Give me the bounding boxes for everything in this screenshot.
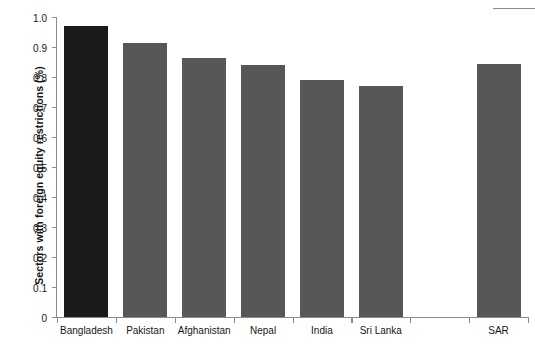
x-axis-label: Sri Lanka	[360, 325, 402, 336]
bar-bangladesh	[64, 26, 108, 317]
bar-chart: Sectors with foreign equity restrictions…	[0, 0, 535, 351]
y-tick: 0.4	[52, 197, 57, 198]
y-tick-label: 0.2	[33, 252, 47, 263]
y-tick: 0.9	[52, 47, 57, 48]
y-tick: 0.3	[52, 227, 57, 228]
corner-rule	[493, 8, 535, 9]
x-axis-label: Pakistan	[126, 325, 164, 336]
bar-pakistan	[123, 43, 167, 318]
y-tick: 0.7	[52, 107, 57, 108]
bar-afghanistan	[182, 58, 226, 318]
bar-sri-lanka	[359, 86, 403, 317]
y-tick-label: 0.1	[33, 282, 47, 293]
x-tick	[410, 317, 411, 323]
y-tick-label: 0.8	[33, 72, 47, 83]
y-tick: 0.1	[52, 287, 57, 288]
x-axis-label: Bangladesh	[60, 325, 113, 336]
y-tick-label: 0.5	[33, 162, 47, 173]
x-tick	[351, 317, 352, 323]
x-tick	[175, 317, 176, 323]
x-tick	[293, 317, 294, 323]
x-axis-label: Afghanistan	[178, 325, 231, 336]
plot-area: 1.00.90.80.70.60.50.40.30.20.10	[57, 17, 528, 317]
y-tick: 0.5	[52, 167, 57, 168]
y-tick-label: 0.6	[33, 132, 47, 143]
y-tick: 1.0	[52, 17, 57, 18]
y-tick-label: 0.7	[33, 102, 47, 113]
y-tick-label: 1.0	[33, 12, 47, 23]
y-tick-label: 0	[41, 312, 47, 323]
x-axis-label: Nepal	[250, 325, 276, 336]
y-tick-label: 0.3	[33, 222, 47, 233]
x-tick	[234, 317, 235, 323]
y-tick: 0.6	[52, 137, 57, 138]
x-tick	[57, 317, 58, 323]
y-tick-label: 0.9	[33, 42, 47, 53]
x-axis-label: India	[311, 325, 333, 336]
x-tick	[528, 317, 529, 323]
x-axis-label: SAR	[488, 325, 509, 336]
bar-nepal	[241, 65, 285, 317]
bar-india	[300, 80, 344, 317]
y-tick: 0.2	[52, 257, 57, 258]
x-tick	[469, 317, 470, 323]
bar-sar	[477, 64, 521, 318]
y-tick: 0.8	[52, 77, 57, 78]
y-tick-label: 0.4	[33, 192, 47, 203]
x-tick	[116, 317, 117, 323]
